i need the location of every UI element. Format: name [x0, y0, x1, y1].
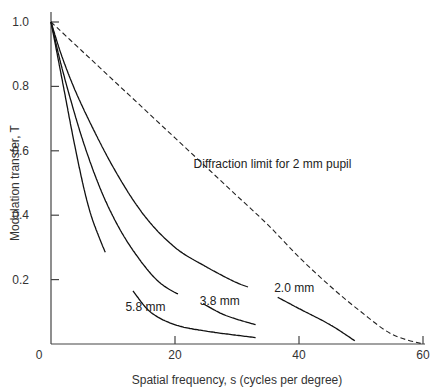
- x-tick-label: 0: [36, 348, 43, 362]
- x-tick-label: 40: [292, 348, 306, 362]
- curve-2-0-mm: [51, 22, 248, 287]
- series-label: 3.8 mm: [200, 294, 240, 308]
- series-label: Diffraction limit for 2 mm pupil: [194, 157, 352, 171]
- ticks: 0.20.40.60.81.00204060: [12, 15, 430, 362]
- y-tick-label: 1.0: [12, 15, 29, 29]
- x-tick-label: 20: [168, 348, 182, 362]
- y-axis-title: Modulation transfer, T: [8, 124, 22, 241]
- curve-3-8-mm: [51, 22, 178, 294]
- x-tick-label: 60: [416, 348, 430, 362]
- annotations: Diffraction limit for 2 mm pupil2.0 mm3.…: [125, 157, 351, 314]
- series-label: 5.8 mm: [125, 300, 165, 314]
- y-tick-label: 0.2: [12, 273, 29, 287]
- series-label: 2.0 mm: [274, 281, 314, 295]
- y-tick-label: 0.8: [12, 79, 29, 93]
- mtf-chart: 0.20.40.60.81.00204060 Diffraction limit…: [0, 0, 443, 391]
- curve-2-0-mm: [278, 297, 355, 341]
- x-axis-title: Spatial frequency, s (cycles per degree): [132, 373, 343, 387]
